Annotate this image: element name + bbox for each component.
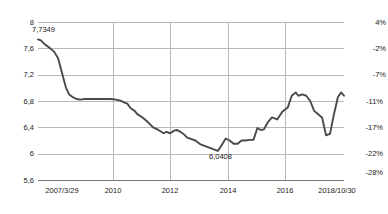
y-axis-right-tick: -22%	[347, 149, 383, 158]
y-axis-left-tick: 7,6	[0, 44, 34, 53]
x-axis-tick: 2016	[265, 186, 305, 196]
axis-bottom	[38, 180, 344, 181]
annotation-maximum: 7,7349	[32, 25, 55, 34]
y-axis-right-tick: -11%	[347, 97, 383, 106]
x-axis-tick: 2018/10/30	[302, 186, 372, 196]
y-axis-left-tick: 7,2	[0, 70, 34, 79]
y-axis-right-tick: -28%	[347, 168, 383, 177]
y-axis-left-tick: 5,6	[0, 176, 34, 185]
x-axis-tick: 2007/3/29	[31, 186, 93, 196]
y-axis-right-tick: -7%	[350, 70, 386, 79]
plot-area	[38, 22, 344, 180]
y-axis-right-tick: -17%	[347, 123, 383, 132]
chart-container: 8 7,6 7,2 6,8 6,4 6 5,6 4% -2% -7% -11% …	[0, 0, 388, 214]
y-axis-left-tick: 6,8	[0, 97, 34, 106]
y-axis-left-tick: 6,4	[0, 123, 34, 132]
y-axis-left-tick: 8	[0, 18, 34, 27]
x-axis-tick: 2014	[208, 186, 248, 196]
y-axis-right-tick: -2%	[350, 44, 386, 53]
y-axis-left-tick: 6	[0, 149, 34, 158]
x-axis-tick: 2012	[150, 186, 190, 196]
series-line-rate	[38, 22, 344, 180]
annotation-minimum: 6,0408	[209, 152, 232, 161]
x-axis-tick: 2010	[93, 186, 133, 196]
y-axis-right-tick: 4%	[350, 18, 386, 27]
